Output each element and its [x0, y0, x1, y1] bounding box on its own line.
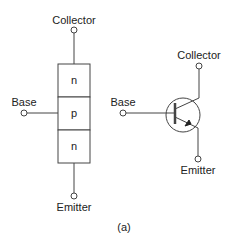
transistor-figure: Collector Base Emitter n p n Collector B… — [0, 0, 227, 240]
figure-caption: (a) — [117, 221, 130, 233]
collector-label: Collector — [52, 14, 96, 26]
symbol-collector-label: Collector — [177, 49, 221, 61]
emitter-arrow-icon — [185, 120, 191, 126]
symbol-base-label: Base — [110, 96, 135, 108]
layer-n-bottom-label: n — [71, 140, 77, 152]
npn-transistor-symbol — [120, 63, 202, 162]
layer-n-top-label: n — [71, 74, 77, 86]
emitter-terminal — [71, 193, 77, 199]
symbol-emitter-terminal — [195, 156, 201, 162]
symbol-emitter-label: Emitter — [181, 164, 216, 176]
npn-layer-diagram — [21, 27, 90, 199]
symbol-collector-terminal — [196, 63, 202, 69]
emitter-label: Emitter — [57, 201, 92, 213]
collector-terminal — [71, 27, 77, 33]
base-label: Base — [11, 96, 36, 108]
layer-p-label: p — [71, 107, 77, 119]
symbol-base-terminal — [120, 110, 126, 116]
base-terminal — [21, 110, 27, 116]
emitter-diagonal — [175, 117, 198, 128]
